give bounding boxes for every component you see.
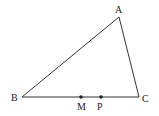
point-m-dot — [79, 95, 83, 99]
vertex-a-label: A — [115, 4, 123, 15]
side-ab — [22, 17, 119, 97]
point-m-label: M — [77, 101, 86, 112]
vertex-b-label: B — [11, 92, 18, 103]
point-p-dot — [99, 95, 103, 99]
triangle-diagram: A B C M P — [0, 0, 159, 116]
vertex-c-label: C — [142, 93, 149, 104]
side-ac — [119, 17, 139, 97]
point-p-label: P — [97, 101, 103, 112]
